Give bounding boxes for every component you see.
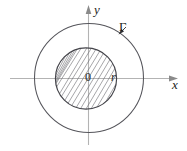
figure-container: y x Γ 0 r bbox=[0, 0, 187, 151]
x-axis bbox=[10, 76, 178, 82]
y-axis-label: y bbox=[94, 3, 100, 16]
x-axis-label: x bbox=[172, 78, 178, 91]
geometry-diagram bbox=[0, 0, 187, 151]
outer-circle-label: Γ bbox=[119, 20, 127, 33]
origin-label: 0 bbox=[85, 71, 91, 83]
arrow-up-icon bbox=[86, 5, 92, 14]
radius-label: r bbox=[111, 71, 116, 83]
